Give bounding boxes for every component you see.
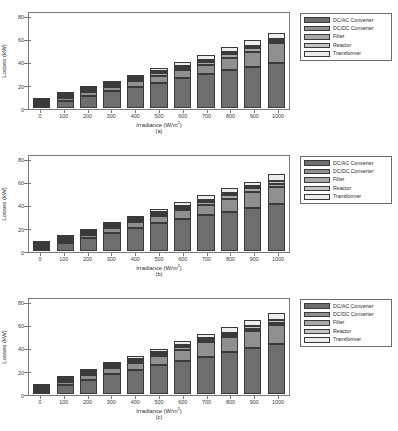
legend-swatch-icon xyxy=(304,43,330,49)
y-axis-tick-inner xyxy=(28,183,31,184)
bar-segment-dc-ac-converter xyxy=(244,67,261,108)
stacked-bar[interactable] xyxy=(127,216,144,251)
stacked-bar[interactable] xyxy=(33,385,50,394)
y-axis-tick-label: 40 xyxy=(6,347,24,352)
legend-item[interactable]: Transformer xyxy=(303,193,389,201)
x-axis-title: Irradiance (W/m2) xyxy=(28,120,290,128)
stacked-bar[interactable] xyxy=(174,202,191,251)
bar-segment-dc-dc-converter xyxy=(268,43,285,63)
stacked-bar[interactable] xyxy=(221,47,238,108)
x-axis-title: Irradiance (W/m2) xyxy=(28,263,290,271)
legend-swatch-icon xyxy=(304,329,330,335)
y-axis-tick-label: 80 xyxy=(6,301,24,306)
stacked-bar[interactable] xyxy=(150,349,167,394)
legend-swatch-icon xyxy=(304,51,330,57)
stacked-bar[interactable] xyxy=(244,182,261,251)
legend-item[interactable]: DC/AC Converter xyxy=(303,159,389,167)
legend-item-label: Filter xyxy=(333,177,345,182)
bar-slot xyxy=(30,300,53,394)
stacked-bar[interactable] xyxy=(103,222,120,251)
bar-segment-dc-ac-converter xyxy=(150,223,167,251)
bar-slot xyxy=(124,157,147,251)
stacked-bar[interactable] xyxy=(57,235,74,251)
bar-segment-dc-ac-converter xyxy=(127,87,144,108)
plot-area: 020406080Losses (kW)01002003004005006007… xyxy=(28,12,290,110)
legend-item-label: Transformer xyxy=(333,194,361,199)
stacked-bar[interactable] xyxy=(268,33,285,108)
bar-segment-dc-ac-converter xyxy=(80,380,97,394)
stacked-bar[interactable] xyxy=(197,55,214,108)
bar-segment-dc-ac-converter xyxy=(103,233,120,251)
bar-slot xyxy=(194,300,217,394)
bar-segment-dc-ac-converter xyxy=(244,208,261,251)
legend-item[interactable]: DC/AC Converter xyxy=(303,302,389,310)
legend-item[interactable]: Filter xyxy=(303,176,389,184)
stacked-bar[interactable] xyxy=(221,327,238,394)
legend-item-label: DC/AC Converter xyxy=(333,304,373,309)
legend-item[interactable]: Reactor xyxy=(303,327,389,335)
stacked-bar[interactable] xyxy=(150,68,167,108)
y-axis-tick-inner xyxy=(28,160,31,161)
stacked-bar[interactable] xyxy=(221,188,238,251)
legend-item[interactable]: Reactor xyxy=(303,41,389,49)
stacked-bar[interactable] xyxy=(268,174,285,251)
y-axis-tick-label: 20 xyxy=(6,227,24,232)
bar-segment-dc-ac-converter xyxy=(127,228,144,251)
stacked-bar[interactable] xyxy=(127,356,144,394)
legend-item[interactable]: DC/DC Converter xyxy=(303,310,389,318)
bar-slot xyxy=(265,14,288,108)
legend-item[interactable]: Transformer xyxy=(303,50,389,58)
bar-segment-dc-dc-converter xyxy=(221,337,238,352)
stacked-bar[interactable] xyxy=(33,242,50,251)
legend-item[interactable]: DC/DC Converter xyxy=(303,167,389,175)
bar-slot xyxy=(30,14,53,108)
bar-segment-dc-ac-converter xyxy=(33,392,50,394)
bar-slot xyxy=(171,157,194,251)
bar-segment-transformer xyxy=(268,174,285,181)
legend-item[interactable]: Reactor xyxy=(303,184,389,192)
bar-segment-dc-ac-converter xyxy=(268,63,285,108)
stacked-bar[interactable] xyxy=(150,209,167,251)
legend-item[interactable]: Filter xyxy=(303,33,389,41)
stacked-bar[interactable] xyxy=(57,92,74,108)
legend-swatch-icon xyxy=(304,177,330,183)
stacked-bar[interactable] xyxy=(80,229,97,251)
y-axis-tick-label: 20 xyxy=(6,84,24,89)
bar-slot xyxy=(241,300,264,394)
stacked-bar[interactable] xyxy=(103,362,120,394)
y-axis-tick-label: 0 xyxy=(6,107,24,112)
bar-segment-dc-dc-converter xyxy=(268,325,285,344)
stacked-bar[interactable] xyxy=(197,195,214,251)
stacked-bar[interactable] xyxy=(174,62,191,108)
bar-segment-dc-ac-converter xyxy=(103,374,120,394)
stacked-bar[interactable] xyxy=(197,334,214,394)
stacked-bar[interactable] xyxy=(244,40,261,108)
stacked-bar[interactable] xyxy=(127,75,144,108)
bar-slot xyxy=(53,14,76,108)
stacked-bar[interactable] xyxy=(57,376,74,394)
subplot-caption: (c) xyxy=(28,414,290,420)
stacked-bar[interactable] xyxy=(103,81,120,108)
bar-slot xyxy=(53,157,76,251)
bar-segment-dc-dc-converter xyxy=(244,52,261,67)
bar-slot xyxy=(124,14,147,108)
stacked-bar[interactable] xyxy=(80,86,97,108)
stacked-bar[interactable] xyxy=(80,369,97,394)
stacked-bar[interactable] xyxy=(244,320,261,394)
bar-group xyxy=(30,300,288,394)
bar-segment-dc-dc-converter xyxy=(221,58,238,70)
stacked-bar[interactable] xyxy=(268,313,285,395)
y-axis-tick-label: 60 xyxy=(6,38,24,43)
legend-item[interactable]: Transformer xyxy=(303,336,389,344)
legend-item[interactable]: DC/AC Converter xyxy=(303,16,389,24)
y-axis-title: Losses (kW) xyxy=(1,330,7,363)
bar-slot xyxy=(218,157,241,251)
y-axis-tick-label: 40 xyxy=(6,61,24,66)
legend-item[interactable]: Filter xyxy=(303,319,389,327)
stacked-bar[interactable] xyxy=(174,341,191,394)
subplot-caption: (b) xyxy=(28,271,290,277)
legend-swatch-icon xyxy=(304,320,330,326)
legend-swatch-icon xyxy=(304,160,330,166)
legend-item[interactable]: DC/DC Converter xyxy=(303,24,389,32)
stacked-bar[interactable] xyxy=(33,99,50,108)
